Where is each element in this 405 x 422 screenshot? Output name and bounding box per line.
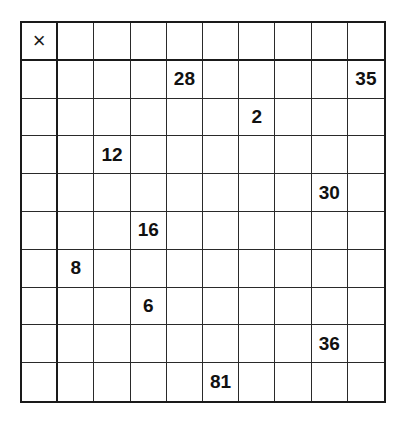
answer-cell[interactable] — [239, 174, 275, 212]
answer-cell[interactable] — [275, 250, 311, 288]
answer-cell[interactable] — [203, 174, 239, 212]
answer-cell[interactable] — [58, 136, 94, 174]
answer-cell[interactable] — [239, 363, 275, 401]
answer-cell[interactable] — [94, 61, 130, 99]
answer-cell[interactable] — [275, 363, 311, 401]
answer-cell[interactable] — [203, 288, 239, 326]
answer-cell[interactable] — [131, 363, 167, 401]
answer-cell[interactable] — [167, 363, 203, 401]
given-product-cell: 12 — [94, 136, 130, 174]
answer-cell[interactable] — [131, 250, 167, 288]
header-row-cell[interactable] — [167, 23, 203, 61]
answer-cell[interactable] — [312, 136, 348, 174]
answer-cell[interactable] — [348, 174, 384, 212]
answer-cell[interactable] — [167, 288, 203, 326]
header-column-cell[interactable] — [22, 136, 58, 174]
answer-cell[interactable] — [167, 325, 203, 363]
answer-cell[interactable] — [239, 61, 275, 99]
header-column-cell[interactable] — [22, 363, 58, 401]
answer-cell[interactable] — [239, 250, 275, 288]
given-product-cell: 8 — [58, 250, 94, 288]
answer-cell[interactable] — [167, 99, 203, 137]
answer-cell[interactable] — [312, 363, 348, 401]
header-row-cell[interactable] — [58, 23, 94, 61]
header-column-cell[interactable] — [22, 325, 58, 363]
answer-cell[interactable] — [203, 325, 239, 363]
answer-cell[interactable] — [58, 288, 94, 326]
answer-cell[interactable] — [275, 212, 311, 250]
header-row-cell[interactable] — [348, 23, 384, 61]
answer-cell[interactable] — [94, 288, 130, 326]
given-product-cell: 35 — [348, 61, 384, 99]
answer-cell[interactable] — [167, 174, 203, 212]
answer-cell[interactable] — [275, 325, 311, 363]
answer-cell[interactable] — [58, 325, 94, 363]
answer-cell[interactable] — [348, 136, 384, 174]
answer-cell[interactable] — [94, 250, 130, 288]
answer-cell[interactable] — [239, 212, 275, 250]
answer-cell[interactable] — [348, 325, 384, 363]
answer-cell[interactable] — [312, 99, 348, 137]
header-row-cell[interactable] — [239, 23, 275, 61]
given-product-cell: 28 — [167, 61, 203, 99]
answer-cell[interactable] — [58, 99, 94, 137]
answer-cell[interactable] — [348, 99, 384, 137]
given-product-cell: 30 — [312, 174, 348, 212]
answer-cell[interactable] — [348, 212, 384, 250]
header-column-cell[interactable] — [22, 212, 58, 250]
header-row-cell[interactable] — [94, 23, 130, 61]
answer-cell[interactable] — [239, 288, 275, 326]
answer-cell[interactable] — [312, 288, 348, 326]
header-row-cell[interactable] — [203, 23, 239, 61]
answer-cell[interactable] — [58, 212, 94, 250]
header-row-cell[interactable] — [312, 23, 348, 61]
answer-cell[interactable] — [167, 250, 203, 288]
answer-cell[interactable] — [203, 250, 239, 288]
answer-cell[interactable] — [131, 325, 167, 363]
answer-cell[interactable] — [94, 99, 130, 137]
answer-cell[interactable] — [348, 288, 384, 326]
answer-cell[interactable] — [131, 174, 167, 212]
answer-cell[interactable] — [203, 212, 239, 250]
answer-cell[interactable] — [203, 61, 239, 99]
answer-cell[interactable] — [94, 363, 130, 401]
answer-cell[interactable] — [58, 61, 94, 99]
answer-cell[interactable] — [131, 136, 167, 174]
answer-cell[interactable] — [58, 363, 94, 401]
multiply-operator-icon: × — [22, 23, 58, 61]
header-column-cell[interactable] — [22, 99, 58, 137]
given-product-cell: 6 — [131, 288, 167, 326]
answer-cell[interactable] — [58, 174, 94, 212]
answer-cell[interactable] — [312, 250, 348, 288]
header-row-cell[interactable] — [275, 23, 311, 61]
answer-cell[interactable] — [348, 363, 384, 401]
answer-cell[interactable] — [239, 325, 275, 363]
answer-cell[interactable] — [275, 136, 311, 174]
answer-cell[interactable] — [94, 325, 130, 363]
answer-cell[interactable] — [131, 99, 167, 137]
answer-cell[interactable] — [131, 61, 167, 99]
answer-cell[interactable] — [94, 212, 130, 250]
multiplication-grid: ×28352123016863681 — [20, 21, 386, 403]
answer-cell[interactable] — [348, 250, 384, 288]
answer-cell[interactable] — [203, 136, 239, 174]
answer-cell[interactable] — [275, 288, 311, 326]
header-column-cell[interactable] — [22, 174, 58, 212]
answer-cell[interactable] — [167, 136, 203, 174]
answer-cell[interactable] — [312, 212, 348, 250]
header-column-cell[interactable] — [22, 250, 58, 288]
answer-cell[interactable] — [239, 136, 275, 174]
given-product-cell: 2 — [239, 99, 275, 137]
answer-cell[interactable] — [275, 174, 311, 212]
header-column-cell[interactable] — [22, 61, 58, 99]
answer-cell[interactable] — [167, 212, 203, 250]
header-row-cell[interactable] — [131, 23, 167, 61]
given-product-cell: 16 — [131, 212, 167, 250]
answer-cell[interactable] — [94, 174, 130, 212]
answer-cell[interactable] — [312, 61, 348, 99]
answer-cell[interactable] — [203, 99, 239, 137]
given-product-cell: 36 — [312, 325, 348, 363]
answer-cell[interactable] — [275, 99, 311, 137]
answer-cell[interactable] — [275, 61, 311, 99]
header-column-cell[interactable] — [22, 288, 58, 326]
